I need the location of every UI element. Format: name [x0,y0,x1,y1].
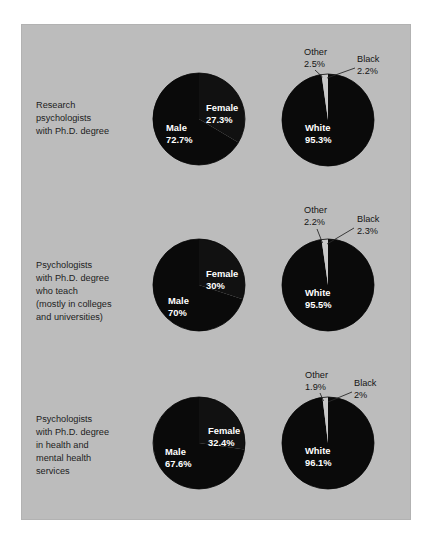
row2-label-line3: who teach [35,286,78,296]
row1-white-label: White [305,122,331,133]
pie-chart-figure: Research psychologists with Ph.D. degree… [0,0,430,549]
row1-black-value: 2.2% [357,66,378,76]
row2-male-value: 70% [168,307,187,318]
row3-sex-pie: Female 32.4% Male 67.6% [153,397,245,489]
row2-female-label: Female [206,268,238,279]
row1-male-label: Male [166,122,187,133]
row1-white-value: 95.3% [305,134,332,145]
row1-female-value: 27.3% [206,114,233,125]
row3-white-label: White [305,445,331,456]
row1-race-pie: White 95.3% Other 2.5% Black 2.2% [282,47,380,166]
row1-label-line3: with Ph.D. degree [35,126,109,136]
row3-black-label: Black [354,378,377,388]
row3-female-value: 32.4% [208,437,235,448]
row2-black-label: Black [357,214,380,224]
row2-female-value: 30% [206,280,225,291]
row3-label-line1: Psychologists [36,414,93,424]
row2-sex-pie: Female 30% Male 70% [153,239,245,331]
row3-label-line5: services [36,466,70,476]
row2-label-line5: and universities) [36,312,103,322]
row1-label-line1: Research [36,100,75,110]
row3-male-label: Male [165,446,186,457]
row3-white-value: 96.1% [305,457,332,468]
row2-other-value: 2.2% [304,217,325,227]
row-teaching-psychologists: Psychologists with Ph.D. degree who teac… [35,205,380,331]
row3-label-line3: in health and [36,440,89,450]
row2-label-line2: with Ph.D. degree [35,273,109,283]
row2-label-line4: (mostly in colleges [36,299,112,309]
figure-root: Research psychologists with Ph.D. degree… [0,0,430,549]
row3-black-value: 2% [354,390,367,400]
row3-other-label: Other [305,370,328,380]
row1-male-value: 72.7% [166,134,193,145]
row1-other-label: Other [304,47,327,57]
row2-white-label: White [305,287,331,298]
row1-sex-pie: Female 27.3% Male 72.7% [153,73,245,165]
row2-label-line1: Psychologists [36,260,93,270]
row3-other-value: 1.9% [305,382,326,392]
row-research-psychologists: Research psychologists with Ph.D. degree… [35,47,380,166]
row2-black-value: 2.3% [357,226,378,236]
row1-other-value: 2.5% [304,59,325,69]
row2-race-pie: White 95.5% Other 2.2% Black 2.3% [282,205,380,331]
row3-label-line2: with Ph.D. degree [35,427,109,437]
row3-race-pie: White 96.1% Other 1.9% Black 2% [282,370,377,489]
row2-other-label: Other [304,205,327,215]
row1-female-label: Female [206,102,238,113]
row3-label-line4: mental health [36,453,91,463]
row-health-services-psychologists: Psychologists with Ph.D. degree in healt… [35,370,377,489]
row3-female-label: Female [208,425,240,436]
row1-black-label: Black [357,54,380,64]
row2-male-label: Male [168,295,189,306]
row1-label-line2: psychologists [36,113,92,123]
row3-male-value: 67.6% [165,458,192,469]
row2-white-value: 95.5% [305,299,332,310]
